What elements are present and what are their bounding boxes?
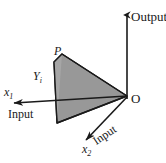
input1-axis-label: x1 — [4, 86, 13, 98]
input2-axis-label: x2 — [82, 143, 91, 155]
input1-axis-subscript: 1 — [9, 92, 13, 101]
output-axis-label: Output — [131, 10, 166, 23]
input2-axis-subscript: 2 — [87, 149, 91, 158]
output-quantity-label: Yi — [33, 70, 42, 82]
input1-caption: Input — [8, 108, 33, 120]
origin-label: O — [131, 92, 140, 105]
diagram-canvas — [0, 0, 166, 163]
frontier-point-label: P — [54, 45, 61, 57]
output-quantity-symbol: Y — [33, 69, 40, 83]
production-frontier-diagram: Output O P Yi x1 Input x2 Input — [0, 0, 166, 163]
output-quantity-subscript: i — [40, 76, 42, 85]
